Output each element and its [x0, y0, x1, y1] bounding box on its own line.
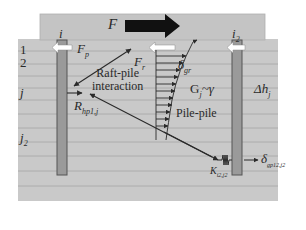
- pile-pile-annotation: Pile-pile: [176, 107, 217, 119]
- load-label: F: [108, 17, 117, 32]
- shear-modulus-suffix: ~γ: [202, 81, 214, 96]
- resistance-label: Rhp1,j: [74, 99, 98, 116]
- piled-raft-diagram: [0, 0, 306, 230]
- resistance-text: R: [74, 98, 82, 113]
- resistance-sub: hp1,j: [82, 107, 98, 116]
- pile-i: [57, 40, 67, 175]
- layer-j-text: j: [20, 85, 24, 100]
- spring-label: Ki2,j2: [210, 166, 228, 178]
- shear-modulus-text: G: [190, 81, 199, 96]
- spring-sub: i2,j2: [217, 172, 228, 178]
- soil-disp-sub: gr: [184, 66, 191, 75]
- pile-force-sub: p: [85, 50, 89, 59]
- shear-modulus-label: Gj~γ: [190, 82, 214, 99]
- pile-force-text: F: [77, 41, 85, 56]
- layer-label-j: j: [20, 86, 24, 99]
- soil-displacement-label: δgr: [178, 58, 191, 75]
- raft-pile-line2: interaction: [92, 80, 143, 93]
- layer-thickness-sub: j: [268, 90, 270, 99]
- layer-label-j2: j2: [20, 131, 28, 148]
- raft-pile-annotation: Raft-pile interaction: [92, 67, 143, 93]
- pile-i2-label-sub: 2: [236, 35, 240, 44]
- layer-label-2: 2: [20, 56, 27, 69]
- pile-force-label: Fp: [77, 42, 89, 59]
- layer-thickness-label: Δhj: [254, 82, 270, 99]
- pile-displacement-label: δgp12,j2: [261, 152, 285, 168]
- pile-i-label-text: i: [59, 26, 63, 41]
- pile-i-label: i: [59, 27, 63, 40]
- pile-i2: [232, 40, 242, 175]
- pile-disp-sub: gp12,j2: [267, 162, 285, 168]
- pile-pile-text: Pile-pile: [176, 106, 217, 120]
- load-label-text: F: [108, 16, 117, 32]
- layer-j2-sub: 2: [24, 139, 28, 148]
- pile-i2-label: i2: [232, 27, 240, 44]
- layer-thickness-text: Δh: [254, 81, 268, 96]
- layer-2-text: 2: [20, 55, 27, 70]
- spring-text: K: [210, 165, 217, 176]
